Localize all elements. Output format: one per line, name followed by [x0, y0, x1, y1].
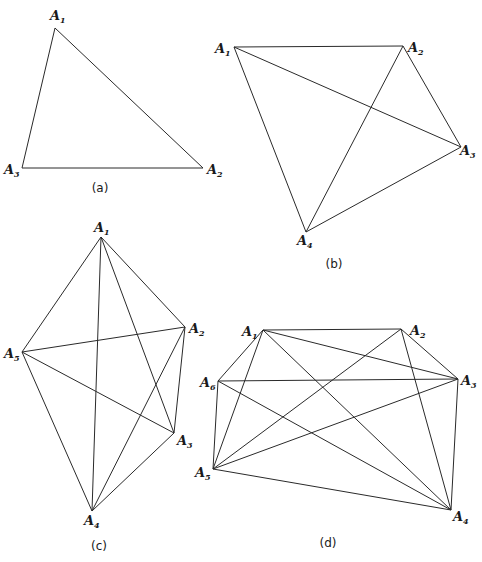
vertex-label-a4: A4 — [451, 509, 469, 526]
edge-a1-a2 — [101, 237, 185, 327]
vertex-subscript: 1 — [252, 331, 258, 341]
panel-caption-d: (d) — [320, 536, 337, 550]
edge-a1-a3 — [263, 330, 458, 379]
vertex-subscript: 1 — [104, 227, 110, 237]
edge-a2-a5 — [22, 327, 185, 352]
vertex-label-a1: A1 — [48, 8, 66, 25]
edge-a2-a3 — [174, 327, 185, 433]
edge-a3-a5 — [213, 379, 458, 469]
vertex-subscript: 3 — [14, 169, 20, 179]
vertex-subscript: 2 — [216, 169, 223, 179]
panel-caption-a: (a) — [92, 181, 109, 195]
panel-a-triangle: A1A2A3(a) — [2, 8, 223, 195]
edge-a3-a6 — [218, 379, 458, 381]
vertex-subscript: 1 — [225, 48, 231, 58]
edge-a3-a4 — [306, 147, 461, 232]
edge-a2-a4 — [401, 329, 451, 510]
vertex-subscript: 5 — [205, 472, 211, 482]
edge-a1-a2 — [55, 28, 203, 168]
vertex-subscript: 6 — [210, 382, 216, 392]
vertex-label-a1: A1 — [240, 324, 258, 341]
vertex-subscript: 2 — [417, 47, 424, 57]
vertex-label-a2: A2 — [408, 323, 426, 340]
edge-a1-a4 — [92, 237, 101, 511]
vertex-subscript: 3 — [470, 150, 476, 160]
panel-c-complete-graph-5: A1A2A3A4A5(c) — [2, 220, 205, 553]
panel-b-complete-graph-4: A1A2A3A4(b) — [213, 40, 476, 271]
edge-a2-a4 — [92, 327, 185, 511]
vertex-label-a2: A2 — [187, 321, 205, 338]
vertex-subscript: 2 — [198, 328, 205, 338]
vertex-label-a1: A1 — [213, 41, 231, 58]
vertex-label-a2: A2 — [205, 162, 223, 179]
edge-a1-a2 — [263, 329, 401, 330]
vertex-label-a6: A6 — [198, 375, 216, 392]
edge-a1-a2 — [234, 46, 403, 47]
vertex-label-a3: A3 — [459, 373, 477, 390]
edge-a3-a4 — [451, 379, 458, 510]
vertex-subscript: 4 — [94, 520, 100, 530]
vertex-subscript: 3 — [471, 380, 477, 390]
edges — [234, 46, 461, 232]
edges — [22, 237, 185, 511]
edge-a1-a3 — [22, 28, 55, 168]
edges — [22, 28, 203, 168]
edge-a1-a5 — [213, 330, 263, 469]
vertex-label-a1: A1 — [92, 220, 110, 237]
vertex-label-a5: A5 — [193, 465, 211, 482]
edges — [213, 329, 458, 510]
edge-a3-a5 — [22, 352, 174, 433]
panel-d-graph-6-vertices: A1A2A3A4A5A6(d) — [193, 323, 477, 550]
edge-a3-a4 — [92, 433, 174, 511]
vertex-label-a4: A4 — [82, 513, 100, 530]
edge-a2-a5 — [213, 329, 401, 469]
vertex-subscript: 5 — [14, 353, 20, 363]
vertex-subscript: 3 — [187, 440, 193, 450]
edge-a2-a4 — [306, 46, 403, 232]
edge-a1-a5 — [22, 237, 101, 352]
panel-caption-c: (c) — [91, 539, 107, 553]
edge-a1-a4 — [234, 47, 306, 232]
figure-canvas: A1A2A3(a) A1A2A3A4(b) A1A2A3A4A5(c) A1A2… — [0, 0, 482, 562]
edge-a2-a3 — [403, 46, 461, 147]
panel-caption-b: (b) — [326, 257, 343, 271]
vertex-subscript: 1 — [60, 15, 66, 25]
vertex-label-a4: A4 — [295, 233, 313, 250]
edge-a1-a4 — [263, 330, 451, 510]
vertex-label-a5: A5 — [2, 346, 20, 363]
vertex-subscript: 4 — [307, 240, 313, 250]
edge-a4-a5 — [22, 352, 92, 511]
edge-a1-a3 — [101, 237, 174, 433]
vertex-label-a3: A3 — [2, 162, 20, 179]
vertex-subscript: 4 — [463, 516, 469, 526]
edge-a1-a3 — [234, 47, 461, 147]
vertex-label-a2: A2 — [406, 40, 424, 57]
vertex-label-a3: A3 — [175, 433, 193, 450]
vertex-subscript: 2 — [419, 330, 426, 340]
vertex-label-a3: A3 — [458, 143, 476, 160]
edge-a4-a6 — [218, 381, 451, 510]
